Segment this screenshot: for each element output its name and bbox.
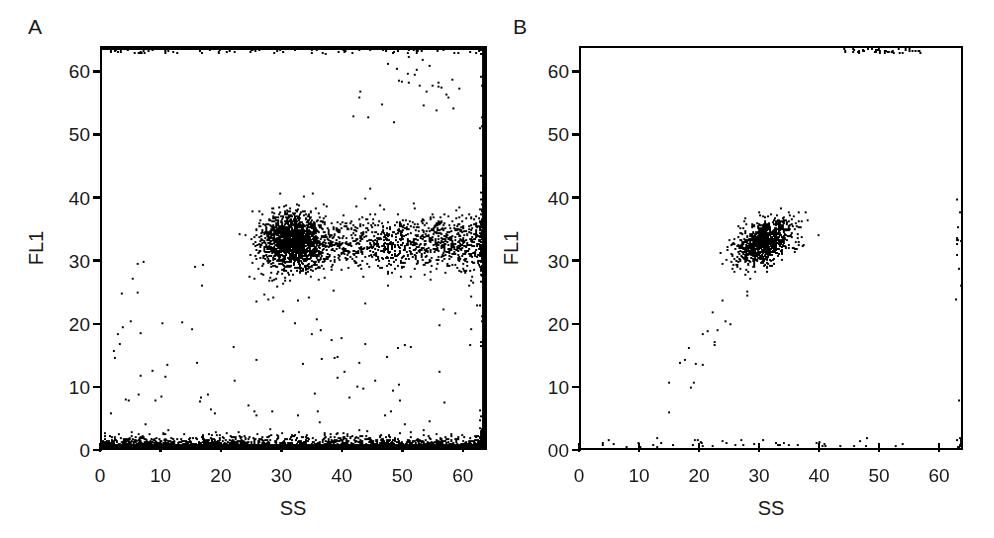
panel-a-y-axis-title: FL1 — [26, 231, 46, 265]
panel-b-x-axis-title: SS — [758, 498, 785, 518]
tick-x-b-3 — [758, 443, 761, 452]
ticklabel-x-b-1: 10 — [628, 466, 649, 485]
tick-y-a-6 — [93, 70, 102, 73]
ticklabel-y-b-6: 60 — [517, 62, 569, 81]
tick-x-b-2 — [698, 443, 701, 452]
tick-x-b-5 — [878, 443, 881, 452]
panel-b: B 00 10 20 30 40 50 60 0 10 20 — [497, 0, 994, 538]
tick-y-a-1 — [93, 386, 102, 389]
tick-x-a-2 — [220, 443, 223, 452]
tick-x-a-4 — [341, 443, 344, 452]
ticklabel-y-b-2: 20 — [517, 314, 569, 333]
ticklabel-x-b-5: 50 — [868, 466, 889, 485]
figure-root: A 0 10 20 30 40 50 60 0 10 — [0, 0, 994, 538]
panel-b-letter: B — [513, 16, 528, 37]
tick-x-a-0 — [99, 443, 102, 452]
ticklabel-x-b-0: 0 — [574, 466, 585, 485]
panel-b-scatter-canvas — [581, 48, 961, 448]
tick-y-a-3 — [93, 259, 102, 262]
ticklabel-x-a-4: 40 — [331, 466, 352, 485]
tick-x-a-5 — [401, 443, 404, 452]
ticklabel-x-a-1: 10 — [150, 466, 171, 485]
ticklabel-y-a-4: 40 — [44, 188, 90, 207]
ticklabel-x-a-0: 0 — [95, 466, 106, 485]
tick-x-a-3 — [280, 443, 283, 452]
panel-b-plot-frame — [579, 46, 963, 450]
panel-a-scatter-canvas — [102, 48, 485, 448]
ticklabel-y-b-5: 50 — [517, 125, 569, 144]
ticklabel-x-a-3: 30 — [271, 466, 292, 485]
tick-x-b-0 — [578, 443, 581, 452]
panel-a-plot-frame — [100, 46, 487, 450]
ticklabel-y-b-4: 40 — [517, 188, 569, 207]
tick-x-a-1 — [159, 443, 162, 452]
tick-y-b-3 — [572, 259, 581, 262]
ticklabel-x-a-2: 20 — [210, 466, 231, 485]
tick-y-a-4 — [93, 196, 102, 199]
ticklabel-y-b-3: 30 — [517, 251, 569, 270]
tick-x-b-1 — [638, 443, 641, 452]
tick-y-b-2 — [572, 323, 581, 326]
tick-y-b-5 — [572, 133, 581, 136]
ticklabel-y-a-6: 60 — [44, 62, 90, 81]
ticklabel-x-b-2: 20 — [688, 466, 709, 485]
ticklabel-x-b-6: 60 — [928, 466, 949, 485]
tick-y-b-4 — [572, 196, 581, 199]
ticklabel-y-b-1: 10 — [517, 377, 569, 396]
tick-x-b-4 — [818, 443, 821, 452]
ticklabel-y-a-0: 0 — [44, 441, 90, 460]
tick-y-a-5 — [93, 133, 102, 136]
tick-x-a-6 — [462, 443, 465, 452]
ticklabel-x-a-6: 60 — [452, 466, 473, 485]
ticklabel-y-b-0: 00 — [517, 441, 569, 460]
panel-b-y-axis-title: FL1 — [501, 231, 521, 265]
tick-x-b-6 — [938, 443, 941, 452]
tick-y-b-1 — [572, 386, 581, 389]
panel-a-letter: A — [28, 16, 43, 37]
ticklabel-x-b-3: 30 — [748, 466, 769, 485]
ticklabel-x-b-4: 40 — [808, 466, 829, 485]
ticklabel-y-a-1: 10 — [44, 377, 90, 396]
panel-a-x-axis-title: SS — [280, 498, 307, 518]
ticklabel-x-a-5: 50 — [392, 466, 413, 485]
ticklabel-y-a-5: 50 — [44, 125, 90, 144]
tick-y-b-6 — [572, 70, 581, 73]
panel-a: A 0 10 20 30 40 50 60 0 10 — [0, 0, 497, 538]
tick-y-a-2 — [93, 323, 102, 326]
ticklabel-y-a-3: 30 — [44, 251, 90, 270]
ticklabel-y-a-2: 20 — [44, 314, 90, 333]
